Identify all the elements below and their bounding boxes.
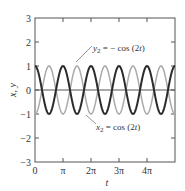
x-tick-label: 3π [114,165,124,176]
y-axis-label: x, y [7,83,18,98]
annotations: y2 = − cos (2t) x2 = cos (2t) [76,43,145,134]
tick-labels: 0π2π3π4π3210−1−2−3 [20,13,152,177]
y-tick-label: 1 [26,61,31,72]
chart: 0π2π3π4π3210−1−2−3 y2 = − cos (2t) x2 = … [0,0,185,191]
y-tick-label: 2 [26,37,31,48]
x-tick-label: π [60,165,65,176]
y-tick-label: 0 [26,85,31,96]
y-tick-label: −2 [20,133,31,144]
x-axis-label: t [106,177,109,188]
y-tick-label: −3 [20,157,31,168]
leader-line-y2 [76,46,92,62]
x-tick-label: 0 [33,165,38,176]
leader-line-x2 [86,115,96,124]
y-tick-label: −1 [20,109,31,120]
x-tick-label: 4π [142,165,152,176]
x-tick-label: 2π [86,165,96,176]
annotation-x2: x2 = cos (2t) [95,122,140,134]
y-tick-label: 3 [26,13,31,24]
annotation-y2: y2 = − cos (2t) [92,43,145,55]
